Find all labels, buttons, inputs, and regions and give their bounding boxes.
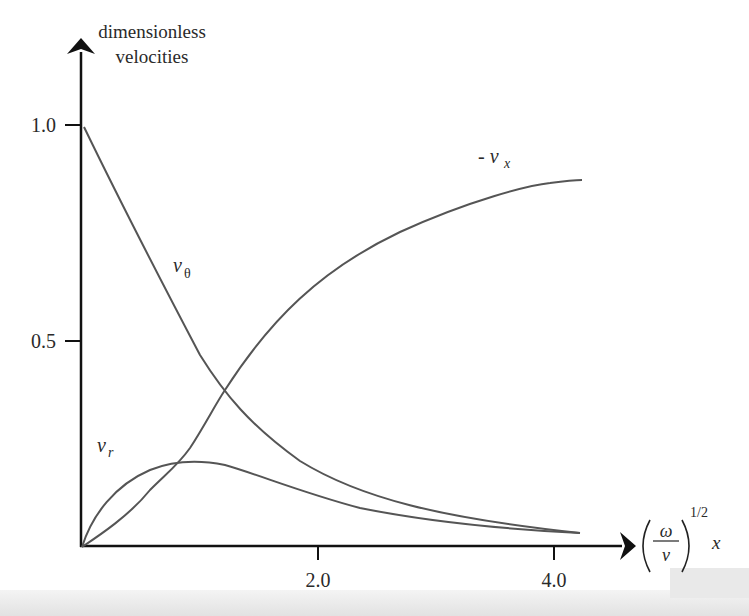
y-axis-label-line2: velocities [116,46,189,67]
label-minus-v-x-sub: x [503,156,511,171]
x-label-exponent: 1/2 [690,505,708,520]
velocity-chart: dimensionless velocities 1.0 0.5 2.0 4.0… [0,0,749,616]
series-minus-v-x [82,180,582,547]
label-minus-v-x: - v [478,145,499,167]
y-axis-label-line1: dimensionless [98,21,206,42]
left-paren [643,520,650,572]
x-axis-label: ω v 1/2 x [643,505,721,572]
y-axis-arrow-icon [67,38,95,54]
label-v-r-sub: r [108,445,114,460]
label-v-r: v [97,434,106,456]
x-label-variable: x [711,532,721,553]
series-v-theta [84,127,580,533]
label-v-theta: v [173,254,182,276]
x-label-numerator: ω [660,521,673,541]
x-label-denominator: v [662,545,670,565]
x-tick-label-2: 2.0 [306,569,331,591]
x-tick-label-4: 4.0 [542,569,567,591]
series-v-r [82,462,580,547]
x-axis-arrow-icon [620,532,636,560]
y-tick-label-1: 1.0 [31,114,56,136]
right-paren [682,520,689,572]
y-tick-label-05: 0.5 [31,330,56,352]
label-v-theta-sub: θ [184,266,191,281]
